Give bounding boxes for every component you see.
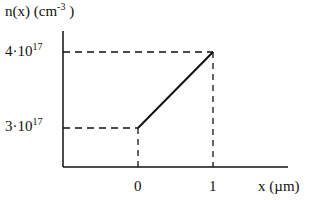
x-axis-label: x (µm)	[258, 179, 300, 194]
y-axis-label: n(x) (cm-3 )	[5, 4, 74, 19]
x-tick-0: 0	[134, 179, 142, 194]
x-tick-1: 1	[209, 179, 217, 194]
data-line	[138, 52, 213, 128]
chart: n(x) (cm-3 ) 4·1017 3·1017 0 1 x (µm)	[0, 0, 312, 200]
y-tick-bottom: 3·1017	[5, 119, 43, 134]
plot-area	[0, 0, 312, 200]
y-tick-top: 4·1017	[5, 44, 43, 59]
